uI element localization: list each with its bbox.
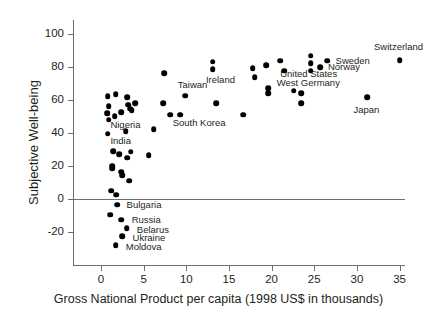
x-axis-title: Gross National Product per capita (1998 … [0, 292, 437, 306]
y-tick-100 [68, 34, 73, 35]
data-point-russia [119, 217, 125, 223]
x-tick-35 [400, 266, 401, 271]
data-point [120, 172, 126, 178]
data-point [264, 62, 270, 68]
data-point-moldova [113, 243, 119, 249]
data-point [129, 108, 135, 114]
point-label-switzerland: Switzerland [374, 42, 423, 52]
data-point [105, 94, 111, 100]
point-label-moldova: Moldova [126, 242, 162, 252]
data-point [104, 110, 110, 116]
point-label-sweden: Sweden [336, 56, 370, 66]
y-tick-0 [68, 199, 73, 200]
data-point [119, 109, 125, 115]
point-label-india: India [110, 136, 131, 146]
point-label-japan: Japan [353, 105, 379, 115]
y-tick-40 [68, 133, 73, 134]
data-point [308, 53, 314, 59]
data-point [161, 70, 167, 76]
x-tick-label-5: 5 [129, 274, 159, 286]
data-point [109, 166, 115, 172]
data-point [114, 192, 120, 198]
data-point [108, 212, 114, 218]
x-tick-label-10: 10 [171, 274, 201, 286]
x-tick-15 [229, 266, 230, 271]
zero-reference-line [73, 199, 405, 200]
data-point [308, 60, 314, 66]
data-point [113, 91, 119, 97]
x-tick-30 [357, 266, 358, 271]
x-tick-label-25: 25 [299, 274, 329, 286]
data-point [213, 100, 219, 106]
data-point-west-germany [291, 88, 297, 94]
x-tick-5 [144, 266, 145, 271]
x-tick-label-35: 35 [385, 274, 415, 286]
point-label-taiwan: Taiwan [178, 80, 208, 90]
y-tick-60 [68, 100, 73, 101]
data-point [128, 149, 134, 155]
data-point [110, 148, 116, 154]
data-point [116, 152, 122, 158]
y-tick--20 [68, 232, 73, 233]
data-point-taiwan [183, 93, 189, 99]
data-point-ireland [210, 66, 216, 72]
x-tick-25 [314, 266, 315, 271]
data-point-japan [364, 94, 370, 100]
data-point [125, 155, 131, 161]
data-point [160, 100, 166, 106]
point-label-russia: Russia [132, 215, 161, 225]
point-label-ireland: Ireland [206, 75, 235, 85]
data-point [277, 58, 283, 64]
data-point-ukraine [120, 233, 126, 239]
data-point [241, 112, 247, 118]
point-label-south-korea: South Korea [173, 118, 226, 128]
x-tick-label-20: 20 [257, 274, 287, 286]
point-label-nigeria: Nigeria [110, 120, 140, 130]
y-tick-80 [68, 67, 73, 68]
data-point [299, 90, 305, 96]
point-label-west-germany: West Germany [277, 78, 340, 88]
x-tick-10 [186, 266, 187, 271]
y-axis-line [73, 20, 74, 266]
point-label-bulgaria: Bulgaria [127, 200, 162, 210]
data-point-bulgaria [114, 202, 120, 208]
data-point [146, 152, 152, 158]
scatter-plot-figure: -20020406080100 05101520253035 NigeriaIn… [0, 0, 437, 316]
data-point-belarus [124, 225, 130, 231]
x-tick-label-15: 15 [214, 274, 244, 286]
x-tick-20 [272, 266, 273, 271]
data-point-switzerland [397, 57, 403, 63]
data-point [252, 75, 258, 81]
data-point [126, 178, 132, 184]
data-point [132, 100, 138, 106]
data-point [265, 90, 271, 96]
data-point [299, 100, 305, 106]
x-tick-0 [101, 266, 102, 271]
y-tick-20 [68, 166, 73, 167]
x-tick-label-0: 0 [86, 274, 116, 286]
data-point [106, 104, 112, 110]
data-point [250, 65, 256, 71]
data-point [151, 127, 157, 133]
data-point [125, 94, 131, 100]
data-point [210, 59, 216, 65]
y-axis-title: Subjective Well-being [26, 33, 41, 253]
x-tick-label-30: 30 [342, 274, 372, 286]
x-axis-line [73, 265, 405, 266]
